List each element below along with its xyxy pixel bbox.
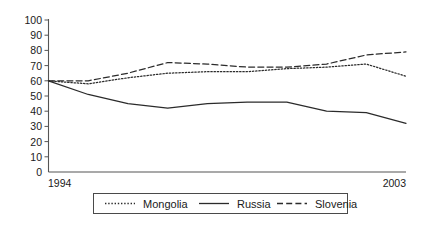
chart-canvas: 100 90 80 70 60 50 40 30 20 10 0 1994 xyxy=(0,0,423,229)
legend-label-slovenia: Slovenia xyxy=(315,198,358,210)
series-line-russia xyxy=(49,81,407,124)
y-tick-label: 20 xyxy=(30,136,42,148)
y-tick-label: 100 xyxy=(24,14,42,26)
y-axis-ticks xyxy=(45,20,49,157)
y-tick-label: 90 xyxy=(30,29,42,41)
series-line-mongolia xyxy=(49,64,407,84)
y-tick-label: 80 xyxy=(30,44,42,56)
y-tick-label: 30 xyxy=(30,120,42,132)
line-chart: 100 90 80 70 60 50 40 30 20 10 0 1994 xyxy=(0,0,423,229)
legend-label-russia: Russia xyxy=(237,198,272,210)
legend-label-mongolia: Mongolia xyxy=(143,198,189,210)
legend: Mongolia Russia Slovenia xyxy=(94,194,359,214)
y-tick-label: 50 xyxy=(30,90,42,102)
x-tick-label-start: 1994 xyxy=(48,177,72,189)
y-axis-tick-labels: 100 90 80 70 60 50 40 30 20 10 0 xyxy=(24,14,42,178)
y-tick-label: 70 xyxy=(30,60,42,72)
x-tick-label-end: 2003 xyxy=(383,177,407,189)
series-line-slovenia xyxy=(49,52,407,81)
y-tick-label: 40 xyxy=(30,105,42,117)
y-tick-label: 60 xyxy=(30,75,42,87)
series-group xyxy=(49,52,407,123)
y-tick-label: 10 xyxy=(30,151,42,163)
y-tick-label: 0 xyxy=(36,166,42,178)
